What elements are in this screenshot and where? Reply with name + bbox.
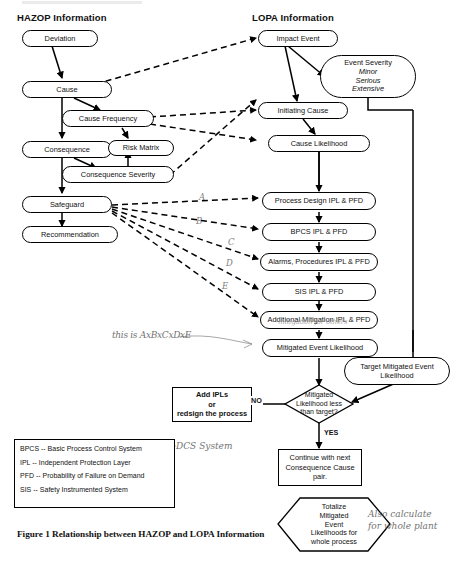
annotation-letter-d: D	[226, 258, 233, 268]
node-safeguard[interactable]: Safeguard	[22, 196, 112, 213]
edge-safeguard-bpcs-B	[112, 207, 258, 229]
edge-label-yes: YES	[323, 428, 339, 437]
edge-target-decision	[352, 382, 398, 402]
figure-caption: Figure 1 Relationship between HAZOP and …	[17, 529, 264, 539]
node-cause[interactable]: Cause	[22, 81, 112, 98]
annotation-formula: this is AxBxCxDxE	[112, 330, 191, 340]
node-risk-matrix[interactable]: Risk Matrix	[108, 140, 174, 156]
node-impact-event[interactable]: Impact Event	[258, 30, 338, 47]
scan-artifact	[22, 1, 142, 4]
node-target-mitigated-event-likelihood[interactable]: Target Mitigated Event Likelihood	[344, 357, 450, 385]
node-process-design-ipl[interactable]: Process Design IPL & PFD	[262, 192, 376, 210]
node-initiating-cause[interactable]: Initiating Cause	[258, 102, 348, 119]
edge-cause-impactevent	[96, 38, 256, 84]
node-cause-likelihood[interactable]: Cause Likelihood	[268, 135, 370, 152]
legend-row-bpcs: BPCS -- Basic Process Control System	[20, 445, 170, 453]
node-recommendation[interactable]: Recommendation	[22, 226, 118, 243]
annotation-letter-a: A	[199, 192, 205, 202]
annotation-letter-c: C	[228, 237, 235, 247]
node-sis-ipl[interactable]: SIS IPL & PFD	[262, 283, 376, 301]
legend-row-ipl: IPL -- Independent Protection Layer	[20, 459, 170, 467]
continue-line-3: pair.	[313, 472, 327, 482]
annotation-letter-e: E	[222, 281, 228, 291]
edge-causefrequency-causelikelihood	[150, 124, 256, 140]
node-event-severity[interactable]: Event Severity Minor Serious Extensive	[320, 55, 416, 98]
box-continue-next-pair[interactable]: Continue with next Consequence Cause pai…	[278, 449, 362, 486]
annotation-dcs-system: DCS System	[176, 441, 232, 451]
legend-row-sis: SIS -- Safety Instrumented System	[20, 486, 170, 494]
annotation-letter-b: B	[196, 216, 202, 226]
decision-line-2: Likelihood less	[296, 400, 342, 408]
decision-line-3: than target?	[300, 408, 337, 416]
edge-cause-causefrequency	[74, 98, 100, 110]
node-mitigated-event-likelihood[interactable]: Mitigated Event Likelihood	[262, 339, 378, 357]
edge-safeguard-additional-E	[112, 213, 258, 317]
edge-eventseverity-stub	[368, 97, 413, 110]
node-deviation[interactable]: Deviation	[22, 30, 98, 47]
edge-safeguard-processdesign-A	[112, 198, 258, 205]
node-consequence-severity[interactable]: Consequence Severity	[62, 166, 174, 183]
diagram-canvas: HAZOP Information LOPA Information Devia…	[0, 0, 461, 564]
abbreviations-legend: BPCS -- Basic Process Control System IPL…	[14, 439, 175, 508]
annotation-whole-plant-line-1: Also calculate	[368, 508, 437, 520]
edge-impactevent-eventseverity	[288, 46, 324, 76]
node-alarms-procedures-ipl[interactable]: Alarms, Procedures IPL & PFD	[260, 253, 378, 271]
box-add-ipls[interactable]: Add IPLs or redsign the process	[172, 387, 252, 422]
annotation-whole-plant-line-2: for whole plant	[368, 520, 437, 532]
box-totalize-mitigated-likelihoods[interactable]: Totalize Mitigated Event Likelihoods for…	[288, 500, 380, 550]
node-consequence[interactable]: Consequence	[22, 141, 112, 158]
continue-line-2: Consequence Cause	[285, 463, 354, 473]
lopa-column-heading: LOPA Information	[252, 12, 334, 23]
edge-causefrequency-riskmatrix	[122, 128, 128, 138]
totalize-line-5: whole process	[311, 538, 357, 547]
decision-line-1: Mitigated	[305, 391, 333, 399]
hazop-column-heading: HAZOP Information	[17, 12, 107, 23]
event-severity-extensive: Extensive	[352, 85, 384, 94]
edge-initiatingcause-causelikelihood	[303, 119, 315, 134]
add-ipls-line-2: or	[208, 400, 215, 410]
edge-impactevent-initiatingcause	[285, 46, 297, 101]
annotation-whole-plant: Also calculate for whole plant	[368, 508, 437, 532]
edge-deviation-cause	[52, 46, 62, 78]
decision-mitigated-likelihood[interactable]: Mitigated Likelihood less than target?	[283, 390, 355, 418]
annotation-additional-mitigation-scribble: mitigation for others	[278, 318, 347, 326]
node-bpcs-ipl[interactable]: BPCS IPL & PFD	[262, 223, 376, 241]
edge-safeguard-sis-D	[112, 211, 258, 289]
legend-row-pfd: PFD -- Probability of Failure on Demand	[20, 472, 170, 480]
add-ipls-line-3: redsign the process	[177, 409, 247, 419]
add-ipls-line-1: Add IPLs	[196, 390, 228, 400]
continue-line-1: Continue with next	[290, 453, 351, 463]
edge-safeguard-alarms-C	[112, 209, 258, 259]
edge-label-no: NO	[250, 396, 263, 405]
node-cause-frequency[interactable]: Cause Frequency	[62, 110, 154, 127]
